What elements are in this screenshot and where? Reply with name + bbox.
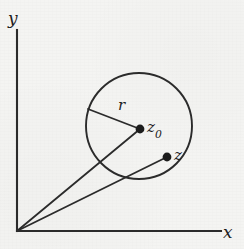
- radius-segment: [88, 109, 140, 129]
- figure-canvas: y x r z0 z: [0, 0, 244, 249]
- diagram-svg: [0, 0, 244, 249]
- point-label-z0-subscript: 0: [155, 128, 162, 141]
- point-label-z: z: [174, 148, 182, 163]
- x-axis-label: x: [223, 224, 233, 241]
- point-marker-z0: [136, 125, 145, 134]
- point-label-z0-base: z: [147, 118, 155, 136]
- y-axis-label: y: [8, 10, 18, 27]
- point-label-z0: z0: [147, 120, 162, 139]
- radius-label: r: [118, 98, 125, 113]
- point-marker-z: [163, 153, 172, 162]
